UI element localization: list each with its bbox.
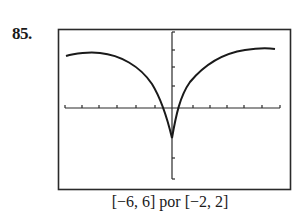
graph <box>0 0 302 215</box>
window-caption: [−6, 6] por [−2, 2] <box>0 193 302 211</box>
function-curve <box>66 48 275 138</box>
y-axis <box>172 32 175 179</box>
